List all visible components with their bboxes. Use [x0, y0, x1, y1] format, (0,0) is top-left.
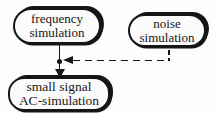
node-frequency-simulation: frequency simulation: [13, 8, 101, 44]
edge-frequency-to-ac-line: [59, 44, 61, 71]
edge-noise-dashed-horizontal: [73, 60, 170, 62]
node-frequency-label-line2: simulation: [30, 26, 85, 40]
node-noise-label-line2: simulation: [140, 31, 195, 45]
node-small-signal-ac-simulation: small signal AC-simulation: [8, 77, 110, 111]
node-noise-simulation: noise simulation: [128, 14, 206, 47]
diagram-canvas: frequency simulation noise simulation sm…: [0, 0, 213, 114]
arrowhead-left-icon: [63, 56, 73, 64]
node-noise-label-line1: noise: [153, 17, 180, 31]
junction-dot: [57, 59, 62, 64]
edge-noise-dashed-vertical: [168, 50, 170, 61]
node-frequency-label-line1: frequency: [31, 12, 83, 26]
node-ac-label-line1: small signal: [27, 80, 92, 94]
node-ac-label-line2: AC-simulation: [19, 94, 99, 108]
arrowhead-down-icon: [55, 69, 65, 78]
